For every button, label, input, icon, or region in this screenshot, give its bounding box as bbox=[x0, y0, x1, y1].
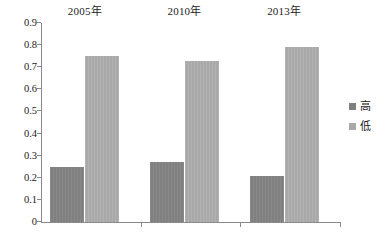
bar-chart: 2005年 2010年 2013年 0.90.80.70.60.50.40.30… bbox=[0, 0, 383, 242]
x-axis-line bbox=[41, 222, 341, 223]
legend-label-low: 低 bbox=[360, 121, 371, 132]
category-label-2005: 2005年 bbox=[50, 2, 119, 18]
legend-swatch-low-icon bbox=[349, 123, 356, 130]
y-axis-tick-label: 0.4 bbox=[24, 129, 37, 140]
category-label-2010: 2010年 bbox=[150, 2, 219, 18]
y-axis-tick bbox=[37, 155, 41, 156]
y-axis-tick bbox=[37, 22, 41, 23]
y-axis-tick-label: 0.1 bbox=[24, 195, 37, 206]
y-axis-tick bbox=[37, 44, 41, 45]
x-axis-tick bbox=[240, 222, 241, 227]
y-axis-tick bbox=[37, 199, 41, 200]
x-axis-tick bbox=[141, 222, 142, 227]
bar-2013年-高 bbox=[250, 176, 284, 222]
bar-2005年-低 bbox=[85, 56, 119, 222]
bar-2010年-低 bbox=[185, 61, 219, 222]
y-axis-tick-labels: 0.90.80.70.60.50.40.30.20.10 bbox=[0, 0, 37, 242]
legend-item-high: 高 bbox=[349, 96, 383, 116]
y-axis-tick bbox=[37, 133, 41, 134]
y-axis-tick-label: 0.5 bbox=[24, 106, 37, 117]
y-axis-tick bbox=[37, 66, 41, 67]
y-axis-tick bbox=[37, 221, 41, 222]
legend-item-low: 低 bbox=[349, 116, 383, 136]
y-axis-tick-label: 0.8 bbox=[24, 40, 37, 51]
y-axis-tick-label: 0.3 bbox=[24, 151, 37, 162]
legend-swatch-high-icon bbox=[349, 103, 356, 110]
y-axis-tick-label: 0.2 bbox=[24, 173, 37, 184]
legend: 高 低 bbox=[349, 96, 383, 136]
y-axis-tick bbox=[37, 177, 41, 178]
legend-label-high: 高 bbox=[360, 101, 371, 112]
y-axis-tick-label: 0 bbox=[32, 217, 37, 228]
y-axis-tick-label: 0.7 bbox=[24, 62, 37, 73]
y-axis-tick-label: 0.6 bbox=[24, 84, 37, 95]
bar-2005年-高 bbox=[50, 167, 84, 222]
y-axis-tick bbox=[37, 88, 41, 89]
y-axis-tick bbox=[37, 110, 41, 111]
plot-area bbox=[41, 23, 340, 222]
bar-2013年-低 bbox=[285, 47, 319, 222]
category-label-2013: 2013年 bbox=[250, 2, 319, 18]
x-axis-tick bbox=[340, 222, 341, 227]
bar-2010年-高 bbox=[150, 162, 184, 222]
y-axis-tick-label: 0.9 bbox=[24, 18, 37, 29]
